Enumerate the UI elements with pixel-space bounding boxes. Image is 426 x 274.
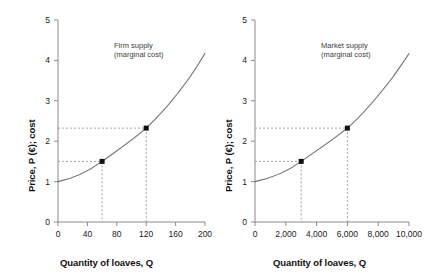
y-tick-label: 3 (235, 97, 247, 106)
x-tick-label: 120 (139, 230, 153, 239)
firm-supply-guide-lines (58, 128, 146, 222)
y-tick-label: 2 (38, 137, 50, 146)
y-tick-label: 5 (38, 16, 50, 25)
x-tick-label: 4,000 (306, 230, 327, 239)
figure-root: 0 1 2 3 4 5 0 40 80 120 160 200 Price, P… (0, 0, 426, 274)
annotation-line-1: Firm supply (114, 41, 164, 50)
x-tick-label: 2,000 (275, 230, 296, 239)
x-axis-title: Quantity of loaves, Q (213, 257, 426, 268)
y-tick-label: 0 (235, 218, 247, 227)
y-tick-label: 4 (235, 56, 247, 65)
y-tick-label: 0 (38, 218, 50, 227)
y-tick-label: 3 (38, 97, 50, 106)
x-tick-label: 0 (56, 230, 61, 239)
y-axis-title: Price, P (€); cost (223, 120, 234, 192)
chart-panel-firm-supply: 0 1 2 3 4 5 0 40 80 120 160 200 Price, P… (0, 0, 213, 274)
x-tick-label: 40 (83, 230, 92, 239)
annotation-line-1: Market supply (321, 41, 371, 50)
firm-supply-annotation: Firm supply (marginal cost) (114, 41, 164, 60)
x-tick-label: 80 (112, 230, 121, 239)
x-tick-label: 160 (169, 230, 183, 239)
annotation-line-2: (marginal cost) (321, 50, 371, 59)
firm-supply-curve (58, 54, 205, 182)
x-tick-label: 0 (253, 230, 258, 239)
annotation-line-2: (marginal cost) (114, 50, 164, 59)
market-supply-guide-lines (255, 128, 347, 222)
y-tick-label: 5 (235, 16, 247, 25)
market-supply-curve (255, 54, 409, 182)
x-tick-label: 200 (198, 230, 212, 239)
y-axis-title: Price, P (€); cost (26, 120, 37, 192)
x-tick-label: 10,000 (396, 230, 422, 239)
y-tick-label: 1 (38, 177, 50, 186)
market-supply-annotation: Market supply (marginal cost) (321, 41, 371, 60)
x-tick-label: 8,000 (368, 230, 389, 239)
x-axis-title: Quantity of loaves, Q (0, 257, 213, 268)
x-tick-label: 6,000 (337, 230, 358, 239)
y-tick-label: 2 (235, 137, 247, 146)
y-tick-label: 1 (235, 177, 247, 186)
y-tick-label: 4 (38, 56, 50, 65)
chart-panel-market-supply: 0 1 2 3 4 5 0 2,000 4,000 6,000 8,000 10… (213, 0, 426, 274)
